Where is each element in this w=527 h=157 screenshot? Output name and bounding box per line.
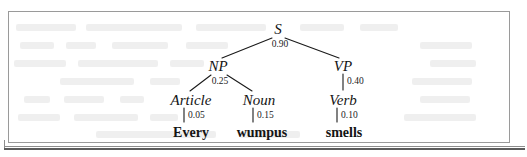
node-noun: Noun — [243, 93, 276, 108]
parse-tree: S 0.90 NP 0.25 VP 0.40 Article 0.05 Noun… — [0, 0, 527, 143]
prob-verb: 0.10 — [341, 111, 358, 121]
bottom-rule-thin — [4, 146, 525, 147]
node-vp: VP — [334, 59, 352, 74]
terminal-wumpus: wumpus — [237, 126, 288, 140]
prob-s: 0.90 — [272, 40, 289, 50]
node-article: Article — [171, 93, 212, 108]
prob-np: 0.25 — [212, 77, 229, 87]
node-s: S — [274, 22, 282, 37]
figure-root: S 0.90 NP 0.25 VP 0.40 Article 0.05 Noun… — [0, 0, 527, 157]
prob-article: 0.05 — [188, 111, 205, 121]
terminal-smells: smells — [326, 126, 363, 140]
bottom-rule-thick — [4, 148, 525, 150]
node-verb: Verb — [329, 93, 357, 108]
prob-noun: 0.15 — [257, 111, 274, 121]
terminal-every: Every — [173, 126, 209, 140]
edge-np-noun — [227, 75, 252, 91]
edge-np-article — [190, 75, 211, 91]
node-np: NP — [208, 59, 227, 74]
edge-s-vp — [285, 38, 339, 58]
prob-vp: 0.40 — [347, 77, 364, 87]
tree-edges — [0, 0, 527, 143]
edge-s-np — [222, 38, 272, 58]
